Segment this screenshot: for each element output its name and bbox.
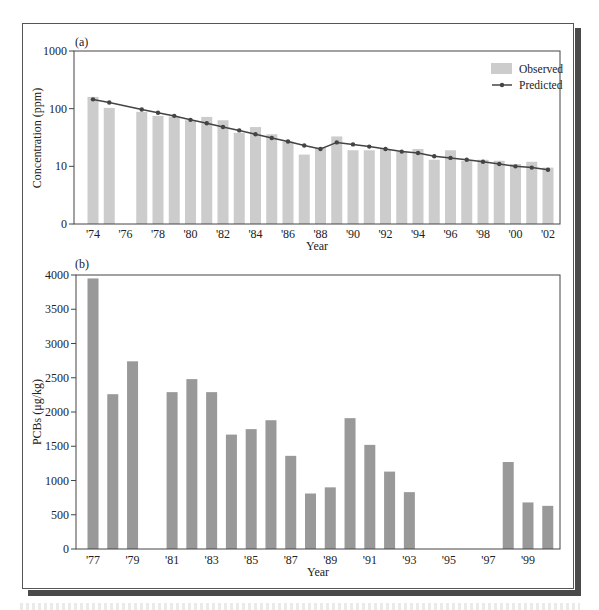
observed-bar xyxy=(380,149,391,224)
x-tick-label: '98 xyxy=(476,227,490,241)
y-axis-a: 0101001000 xyxy=(43,44,74,231)
predicted-marker xyxy=(286,139,290,143)
observed-bar xyxy=(348,150,359,224)
y-tick-label: 1500 xyxy=(45,439,69,453)
x-tick-label: '77 xyxy=(86,553,100,567)
pcb-bar xyxy=(285,456,296,549)
y-tick-label: 100 xyxy=(49,102,67,116)
observed-bar xyxy=(413,149,424,224)
legend-observed-swatch xyxy=(491,63,512,74)
pcb-bar xyxy=(364,445,375,549)
pcb-bar xyxy=(186,379,197,549)
y-tick-label: 2000 xyxy=(45,405,69,419)
predicted-marker xyxy=(91,97,95,101)
predicted-marker xyxy=(513,164,517,168)
observed-bar xyxy=(494,161,505,224)
observed-bar xyxy=(283,141,294,224)
pcb-bar xyxy=(305,494,316,549)
y-tick-label: 3500 xyxy=(45,302,69,316)
legend: Observed Predicted xyxy=(491,63,563,91)
x-tick-label: '02 xyxy=(541,227,555,241)
pcb-bar xyxy=(246,429,257,549)
predicted-marker xyxy=(253,132,257,136)
observed-bar xyxy=(315,148,326,224)
chart-b: (b) 05001000150020002500300035004000 '77… xyxy=(30,257,560,579)
observed-bar xyxy=(234,133,245,224)
predicted-marker xyxy=(465,158,469,162)
x-tick-label: '81 xyxy=(165,553,179,567)
predicted-marker xyxy=(140,107,144,111)
x-tick-label: '86 xyxy=(281,227,295,241)
predicted-marker xyxy=(237,128,241,132)
observed-bar xyxy=(250,127,261,224)
pcb-bar xyxy=(127,361,138,549)
predicted-marker xyxy=(530,165,534,169)
pcb-bars xyxy=(88,278,554,549)
pcb-bar xyxy=(345,418,356,549)
figure-svg: (a) 0101001000 '74'76'78'80'82'84'86'88'… xyxy=(0,0,599,610)
y-tick-label: 1000 xyxy=(45,474,69,488)
observed-bar xyxy=(364,150,375,224)
y-tick-label: 0 xyxy=(61,217,67,231)
predicted-marker xyxy=(221,125,225,129)
pcb-bar xyxy=(503,462,514,549)
predicted-marker xyxy=(351,142,355,146)
x-axis-label-a: Year xyxy=(306,239,328,253)
x-tick-label: '92 xyxy=(378,227,392,241)
y-axis-b: 05001000150020002500300035004000 xyxy=(45,268,76,556)
pcb-bar xyxy=(167,392,178,549)
x-tick-label: '95 xyxy=(442,553,456,567)
x-tick-label: '78 xyxy=(151,227,165,241)
y-tick-label: 500 xyxy=(51,508,69,522)
y-tick-label: 1000 xyxy=(43,44,67,58)
predicted-marker xyxy=(188,118,192,122)
pcb-bar xyxy=(265,420,276,549)
pcb-bar xyxy=(325,487,336,549)
x-tick-label: '00 xyxy=(508,227,522,241)
predicted-marker xyxy=(416,151,420,155)
plot-area-b xyxy=(76,275,560,549)
legend-predicted-marker xyxy=(500,83,504,87)
chart-a: (a) 0101001000 '74'76'78'80'82'84'86'88'… xyxy=(30,35,563,253)
x-tick-label: '97 xyxy=(481,553,495,567)
x-tick-label: '76 xyxy=(118,227,132,241)
pcb-bar xyxy=(226,435,237,549)
y-axis-label-a: Concentration (ppm) xyxy=(30,88,44,188)
panel-a-label: (a) xyxy=(75,35,88,49)
predicted-marker xyxy=(270,136,274,140)
predicted-marker xyxy=(318,147,322,151)
x-tick-label: '80 xyxy=(183,227,197,241)
y-tick-label: 4000 xyxy=(45,268,69,282)
x-tick-label: '87 xyxy=(284,553,298,567)
pcb-bar xyxy=(107,394,118,549)
observed-bar xyxy=(478,160,489,224)
panel-b-label: (b) xyxy=(75,257,89,271)
pcb-bar xyxy=(88,278,99,549)
x-tick-label: '84 xyxy=(248,227,262,241)
observed-bar xyxy=(218,120,229,224)
y-tick-label: 2500 xyxy=(45,371,69,385)
predicted-marker xyxy=(383,147,387,151)
observed-bar xyxy=(185,120,196,224)
observed-bar xyxy=(543,168,554,224)
observed-bar xyxy=(153,116,164,224)
x-tick-label: '99 xyxy=(521,553,535,567)
predicted-marker xyxy=(400,149,404,153)
observed-bar xyxy=(510,164,521,224)
y-tick-label: 3000 xyxy=(45,337,69,351)
legend-predicted-label: Predicted xyxy=(519,79,563,91)
observed-bar xyxy=(299,155,310,224)
x-tick-label: '83 xyxy=(205,553,219,567)
y-axis-label-b: PCBs (μg/kg) xyxy=(30,379,44,445)
predicted-marker xyxy=(302,143,306,147)
pcb-bar xyxy=(404,492,415,549)
observed-bar xyxy=(445,150,456,224)
observed-bar xyxy=(88,97,99,224)
pcb-bar xyxy=(206,392,217,549)
observed-bar xyxy=(201,117,212,224)
x-tick-label: '96 xyxy=(443,227,457,241)
predicted-marker xyxy=(481,160,485,164)
x-tick-label: '90 xyxy=(346,227,360,241)
observed-bar xyxy=(169,117,180,224)
predicted-marker xyxy=(156,111,160,115)
